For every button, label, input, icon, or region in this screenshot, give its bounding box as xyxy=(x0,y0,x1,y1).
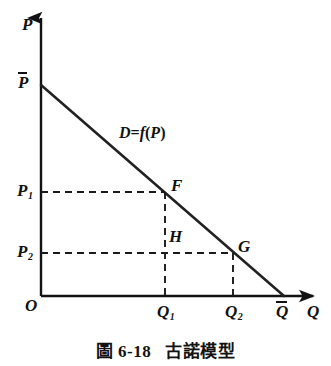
point-label-h: H xyxy=(169,228,182,245)
point-label-g: G xyxy=(238,238,250,255)
price-axis-label-text: P xyxy=(22,15,32,34)
quantity-axis-label-text: Q xyxy=(307,302,319,321)
figure-container: P P P1 P2 O Q1 Q2 Q Q D=f(P) F H xyxy=(0,0,331,366)
x-tick-label-q2: Q2 xyxy=(225,303,243,322)
q2-subscript-text: 2 xyxy=(238,311,243,322)
y-tick-label-p1: P1 xyxy=(17,182,33,201)
p2-base-text: P xyxy=(17,242,27,261)
y-tick-label-p-bar: P xyxy=(18,74,28,91)
point-h-text: H xyxy=(169,227,182,246)
figure-caption-title: 古諾模型 xyxy=(165,342,235,361)
curve-label-equals: = xyxy=(131,124,140,141)
x-tick-label-q1: Q1 xyxy=(157,303,175,322)
quantity-axis-label: Q xyxy=(307,303,319,320)
p-bar-text: P xyxy=(18,74,28,91)
origin-label-text: O xyxy=(25,296,37,315)
q1-base-text: Q xyxy=(157,302,169,321)
figure-caption: 圖 6-18古諾模型 xyxy=(0,337,331,362)
demand-curve-line xyxy=(41,85,284,296)
p2-subscript-text: 2 xyxy=(28,251,33,262)
origin-label: O xyxy=(25,297,37,314)
p1-base-text: P xyxy=(17,181,27,200)
p1-subscript-text: 1 xyxy=(28,190,33,201)
q2-base-text: Q xyxy=(225,302,237,321)
point-f-text: F xyxy=(171,176,182,195)
point-label-f: F xyxy=(171,177,182,194)
point-g-text: G xyxy=(238,237,250,256)
curve-label-d: D xyxy=(119,124,131,141)
curve-label-p: P xyxy=(150,124,160,141)
x-tick-label-q-bar: Q xyxy=(276,303,288,320)
price-axis-label: P xyxy=(22,16,32,33)
q-bar-text: Q xyxy=(276,303,288,320)
demand-curve-label: D=f(P) xyxy=(119,125,165,141)
figure-caption-number: 圖 6-18 xyxy=(96,342,151,361)
curve-label-close-paren: ) xyxy=(160,124,165,141)
y-tick-label-p2: P2 xyxy=(17,243,33,262)
q1-subscript-text: 1 xyxy=(170,311,175,322)
